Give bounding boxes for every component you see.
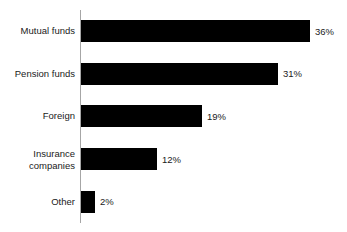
bar-value-label: 12%	[162, 154, 181, 165]
bar[interactable]	[81, 20, 310, 42]
chart-row: Other 2%	[0, 180, 347, 223]
chart-row: Pension funds 31%	[0, 53, 347, 96]
category-label: Other	[0, 196, 75, 208]
bar[interactable]	[81, 105, 202, 127]
plot-area: Mutual funds 36% Pension funds 31% Forei…	[0, 0, 347, 232]
bar-group: 36%	[81, 20, 334, 42]
bar-group: 12%	[81, 148, 181, 170]
category-label: Pension funds	[0, 68, 75, 80]
bar[interactable]	[81, 63, 278, 85]
bar-value-label: 2%	[100, 196, 114, 207]
bar[interactable]	[81, 148, 157, 170]
bar-group: 19%	[81, 105, 226, 127]
bar-value-label: 31%	[283, 68, 302, 79]
chart-row: Insurance companies 12%	[0, 138, 347, 181]
bar-value-label: 19%	[207, 111, 226, 122]
category-label: Mutual funds	[0, 26, 75, 38]
bar-chart: Mutual funds 36% Pension funds 31% Forei…	[0, 0, 347, 232]
bar-group: 31%	[81, 63, 302, 85]
category-label: Foreign	[0, 111, 75, 123]
chart-row: Foreign 19%	[0, 95, 347, 138]
chart-row: Mutual funds 36%	[0, 10, 347, 53]
bar[interactable]	[81, 191, 95, 213]
bar-group: 2%	[81, 191, 114, 213]
category-label: Insurance companies	[0, 148, 75, 171]
bar-value-label: 36%	[315, 26, 334, 37]
category-axis-line	[80, 10, 81, 223]
